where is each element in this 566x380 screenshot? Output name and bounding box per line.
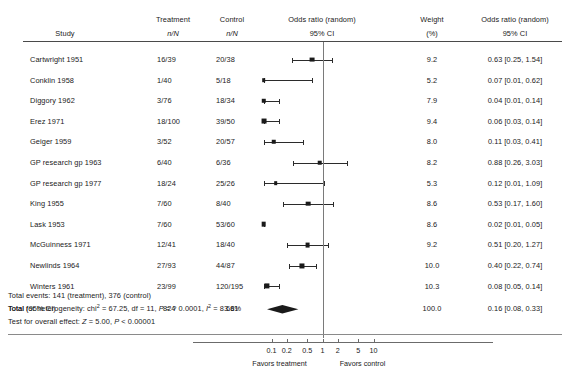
col-header-weight-pct: (%): [426, 29, 438, 38]
row-control-value: 5/18: [216, 76, 231, 85]
row-control-value: 18/34: [216, 96, 235, 105]
row-treatment-value: 16/39: [157, 55, 176, 64]
row-effect-marker: [261, 222, 266, 227]
row-effect-marker: [261, 119, 266, 124]
row-treatment-value: 7/60: [157, 199, 172, 208]
x-axis-tick-label: 0.5: [302, 346, 312, 355]
row-ci-cap-right: [333, 202, 334, 207]
overall-pre: Test for overall effect:: [8, 317, 82, 326]
row-ci-cap-right: [324, 181, 325, 186]
x-axis-tick-label: 0.2: [282, 346, 292, 355]
row-treatment-value: 3/52: [157, 137, 172, 146]
x-axis-tick: [338, 339, 339, 342]
row-ci-cap-left: [264, 181, 265, 186]
col-header-plot-title: Odds ratio (random): [288, 15, 356, 24]
row-ci-cap-right: [264, 222, 265, 227]
row-ci-cap-right: [279, 99, 280, 104]
row-treatment-value: 6/40: [157, 158, 172, 167]
row-control-value: 8/40: [216, 199, 231, 208]
row-study-name: Conklin 1958: [30, 76, 74, 85]
row-ci-cap-left: [292, 58, 293, 63]
x-axis-tick: [374, 339, 375, 342]
pooled-effect-diamond: [266, 304, 299, 314]
row-ci-cap-right: [332, 58, 333, 63]
row-weight-value: 10.3: [425, 282, 440, 291]
row-weight-value: 8.6: [427, 199, 438, 208]
row-ci-cap-right: [347, 161, 348, 166]
bottom-rule: [8, 334, 562, 335]
row-effect-marker: [261, 98, 265, 102]
row-control-value: 39/50: [216, 117, 235, 126]
row-weight-value: 5.2: [427, 76, 438, 85]
row-odds-ratio-value: 0.06 [0.03, 0.14]: [488, 117, 543, 126]
overall-mid: = 5.00,: [87, 317, 115, 326]
x-axis-tick-label: 10: [370, 346, 378, 355]
row-odds-ratio-value: 0.51 [0.20, 1.27]: [488, 240, 543, 249]
col-header-treatment-nn: n/N: [167, 29, 179, 38]
row-effect-marker: [310, 57, 315, 62]
row-odds-ratio-value: 0.53 [0.17, 1.60]: [488, 199, 543, 208]
x-axis-tick: [272, 339, 273, 342]
row-weight-value: 9.2: [427, 240, 438, 249]
row-ci-line: [289, 266, 316, 267]
row-study-name: Newlinds 1964: [30, 261, 79, 270]
row-effect-marker: [274, 181, 278, 185]
row-effect-marker: [264, 284, 269, 289]
row-study-name: McGuinness 1971: [30, 240, 91, 249]
row-ci-cap-left: [264, 284, 265, 289]
row-control-value: 53/60: [216, 220, 235, 229]
row-control-value: 25/26: [216, 179, 235, 188]
col-header-control: Control: [220, 15, 244, 24]
row-weight-value: 9.2: [427, 55, 438, 64]
row-odds-ratio-value: 0.40 [0.22, 0.74]: [488, 261, 543, 270]
row-ci-line: [264, 142, 303, 143]
row-ci-line: [283, 204, 333, 205]
axis-caption-favors-treatment: Favors treatment: [252, 359, 306, 368]
row-weight-value: 8.0: [427, 137, 438, 146]
col-header-treatment: Treatment: [156, 15, 190, 24]
col-header-odds-ratio-ci: 95% CI: [503, 29, 528, 38]
row-ci-cap-right: [303, 140, 304, 145]
axis-caption-favors-control: Favors control: [340, 359, 386, 368]
x-axis-tick: [307, 339, 308, 342]
x-axis-tick: [358, 339, 359, 342]
col-header-plot-ci: 95% CI: [310, 29, 335, 38]
heterogeneity-tail: = 83.6%: [211, 304, 241, 313]
row-weight-value: 7.9: [427, 96, 438, 105]
heterogeneity-pre: Total for heterogeneity: chi: [8, 304, 97, 313]
row-effect-marker: [300, 263, 305, 268]
row-effect-marker: [271, 140, 275, 144]
row-study-name: Cartwright 1951: [30, 55, 83, 64]
row-odds-ratio-value: 0.07 [0.01, 0.62]: [488, 76, 543, 85]
row-ci-line: [287, 245, 328, 246]
row-effect-marker: [305, 242, 310, 247]
row-ci-cap-left: [264, 140, 265, 145]
x-axis-tick: [287, 339, 288, 342]
total-row-odds-ratio: 0.16 [0.08, 0.33]: [488, 304, 543, 313]
row-control-value: 18/40: [216, 240, 235, 249]
row-weight-value: 5.3: [427, 179, 438, 188]
row-ci-cap-left: [289, 264, 290, 269]
row-weight-value: 9.4: [427, 117, 438, 126]
heterogeneity-p-value: = ? 0.0001,: [164, 304, 206, 313]
row-treatment-value: 18/100: [157, 117, 180, 126]
forest-plot-figure: Study Treatment n/N Control n/N Odds rat…: [0, 0, 566, 380]
row-odds-ratio-value: 0.88 [0.26, 3.03]: [488, 158, 543, 167]
row-ci-cap-left: [264, 78, 265, 83]
row-control-value: 20/38: [216, 55, 235, 64]
row-treatment-value: 18/24: [157, 179, 176, 188]
row-ci-cap-left: [264, 119, 265, 124]
x-axis-tick-label: 1: [321, 346, 325, 355]
col-header-study: Study: [55, 29, 74, 38]
row-odds-ratio-value: 0.04 [0.01, 0.14]: [488, 96, 543, 105]
total-row-weight: 100.0: [423, 304, 442, 313]
row-control-value: 120/195: [216, 282, 243, 291]
row-control-value: 44/87: [216, 261, 235, 270]
row-treatment-value: 27/93: [157, 261, 176, 270]
row-ci-line: [264, 183, 325, 184]
row-ci-cap-right: [316, 264, 317, 269]
row-odds-ratio-value: 0.11 [0.03, 0.41]: [488, 137, 542, 146]
row-study-name: Lask 1953: [30, 220, 65, 229]
row-study-name: GP research gp 1977: [30, 179, 102, 188]
col-header-weight: Weight: [420, 15, 443, 24]
